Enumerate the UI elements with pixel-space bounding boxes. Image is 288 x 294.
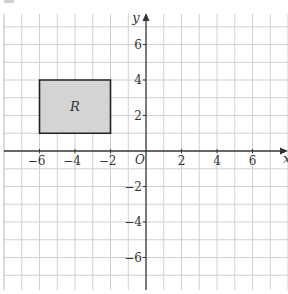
coordinate-grid-diagram: RyxO−6−4−2246642−2−4−6 <box>0 0 288 294</box>
origin-label: O <box>135 153 145 167</box>
x-tick-label: −2 <box>99 154 117 168</box>
x-axis-label: x <box>283 151 288 166</box>
y-tick-label: −6 <box>124 251 142 265</box>
y-tick-label: 4 <box>134 73 142 87</box>
x-tick-label: −6 <box>28 154 46 168</box>
y-axis-arrow-icon <box>143 13 150 21</box>
y-tick-label: −2 <box>124 180 142 194</box>
x-tick-label: 4 <box>213 154 221 168</box>
y-tick-label: −4 <box>124 215 142 229</box>
y-tick-label: 2 <box>134 109 142 123</box>
shape-label: R <box>69 99 80 114</box>
x-tick-label: 6 <box>249 154 257 168</box>
x-tick-label: 2 <box>178 154 186 168</box>
x-tick-label: −4 <box>63 154 81 168</box>
y-axis-label: y <box>131 10 140 25</box>
y-tick-label: 6 <box>134 38 142 52</box>
